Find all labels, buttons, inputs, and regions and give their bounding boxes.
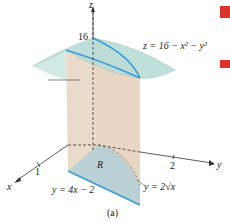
region-label: R	[96, 159, 103, 170]
z-axis-label: z	[88, 0, 93, 10]
surface-equation: z = 16 − x² − y²	[142, 40, 208, 51]
y-arrow-icon	[209, 160, 215, 166]
curve-equation: y = 2√x	[143, 181, 176, 192]
page-edge-heading	[220, 6, 230, 18]
surface-front	[33, 50, 66, 80]
line-equation: y = 4x − 2	[51, 184, 94, 195]
diagram-canvas: z 16 x 1 y 2 z = 16 − x² − y² R y = 4x −…	[0, 0, 230, 222]
z-tick-label: 16	[78, 31, 88, 42]
y-axis-label: y	[216, 159, 222, 170]
x-tick-label: 1	[35, 166, 40, 177]
x-arrow-icon	[14, 177, 21, 183]
page-edge-subheading	[220, 60, 230, 68]
y-tick	[173, 155, 174, 159]
x-axis	[16, 145, 68, 181]
y-axis	[140, 152, 212, 163]
figure-caption: (a)	[107, 207, 118, 219]
x-axis-label: x	[6, 181, 12, 192]
y-tick-label: 2	[170, 160, 175, 171]
